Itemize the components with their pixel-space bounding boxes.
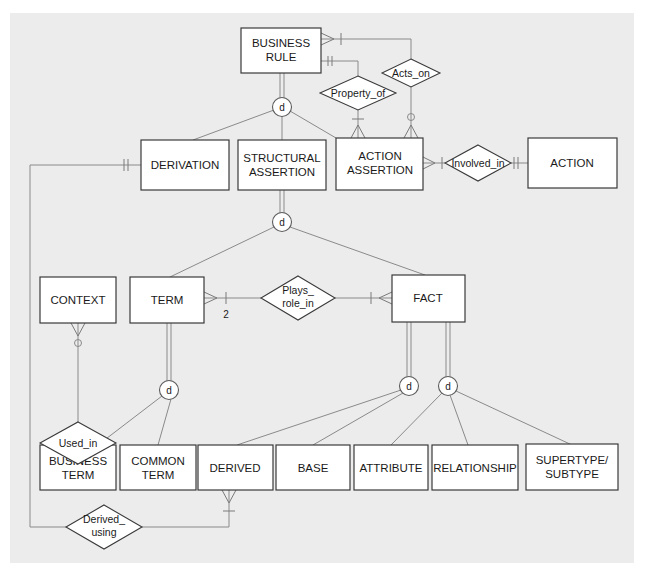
subtype-label: d <box>166 385 172 396</box>
entity-label: TERM <box>142 469 175 481</box>
entity-label: RELATIONSHIP <box>433 462 517 474</box>
relationship-label: Used_in <box>59 437 98 449</box>
entity-label: TERM <box>62 469 95 481</box>
relationship-label: Acts_on <box>392 67 430 79</box>
entity-derived[interactable]: DERIVED <box>198 445 273 490</box>
subtype-disjoint-fact-kind: d <box>439 377 458 396</box>
relationship-label: Property_of <box>331 87 385 99</box>
entity-label: TERM <box>151 294 184 306</box>
relationship-label: Involved_in <box>451 157 504 169</box>
relationship-label: Derived_ <box>83 513 125 525</box>
entity-attribute[interactable]: ATTRIBUTE <box>354 445 428 490</box>
relationship-label: using <box>91 526 116 538</box>
entity-action-assertion[interactable]: ACTION ASSERTION <box>336 138 423 190</box>
subtype-label: d <box>279 102 285 113</box>
entity-label: STRUCTURAL <box>243 152 321 164</box>
subtype-disjoint-fact-derivation: d <box>400 377 419 396</box>
entity-label: ACTION <box>358 150 401 162</box>
subtype-label: d <box>406 381 412 392</box>
entity-derivation[interactable]: DERIVATION <box>141 140 229 190</box>
entity-action[interactable]: ACTION <box>528 138 617 188</box>
entity-supertype-subtype[interactable]: SUPERTYPE/ SUBTYPE <box>526 444 618 490</box>
subtype-label: d <box>445 381 451 392</box>
subtype-label: d <box>279 217 285 228</box>
entity-label: ATTRIBUTE <box>359 462 422 474</box>
entity-context[interactable]: CONTEXT <box>40 277 116 323</box>
entity-structural-assertion[interactable]: STRUCTURAL ASSERTION <box>238 140 326 190</box>
entity-label: DERIVED <box>209 462 260 474</box>
entity-label: BASE <box>298 462 329 474</box>
relationship-label: Plays_ <box>282 284 314 296</box>
entity-fact[interactable]: FACT <box>392 275 465 322</box>
entity-label: CONTEXT <box>51 294 106 306</box>
er-diagram: BUSINESS RULE DERIVATION STRUCTURAL ASSE… <box>0 0 646 574</box>
entity-business-rule[interactable]: BUSINESS RULE <box>241 28 321 73</box>
entity-relationship[interactable]: RELATIONSHIP <box>432 445 518 490</box>
entity-common-term[interactable]: COMMON TERM <box>120 445 196 490</box>
entity-base[interactable]: BASE <box>276 445 350 490</box>
entity-label: BUSINESS <box>252 37 310 49</box>
entity-label: COMMON <box>131 455 185 467</box>
entity-label: ASSERTION <box>249 166 315 178</box>
cardinality-label: 2 <box>223 309 229 320</box>
entity-label: SUPERTYPE/ <box>536 454 609 466</box>
subtype-disjoint-business-rule: d <box>273 98 292 117</box>
entity-label: SUBTYPE <box>545 468 599 480</box>
relationship-label: role_in <box>282 297 314 309</box>
entity-label: ASSERTION <box>347 164 413 176</box>
subtype-disjoint-term: d <box>160 381 179 400</box>
entity-term[interactable]: TERM <box>130 277 204 323</box>
entity-label: ACTION <box>550 157 593 169</box>
entity-label: DERIVATION <box>151 159 220 171</box>
entity-label: FACT <box>413 292 442 304</box>
entity-label: RULE <box>266 51 297 63</box>
subtype-disjoint-structural-assertion: d <box>273 213 292 232</box>
